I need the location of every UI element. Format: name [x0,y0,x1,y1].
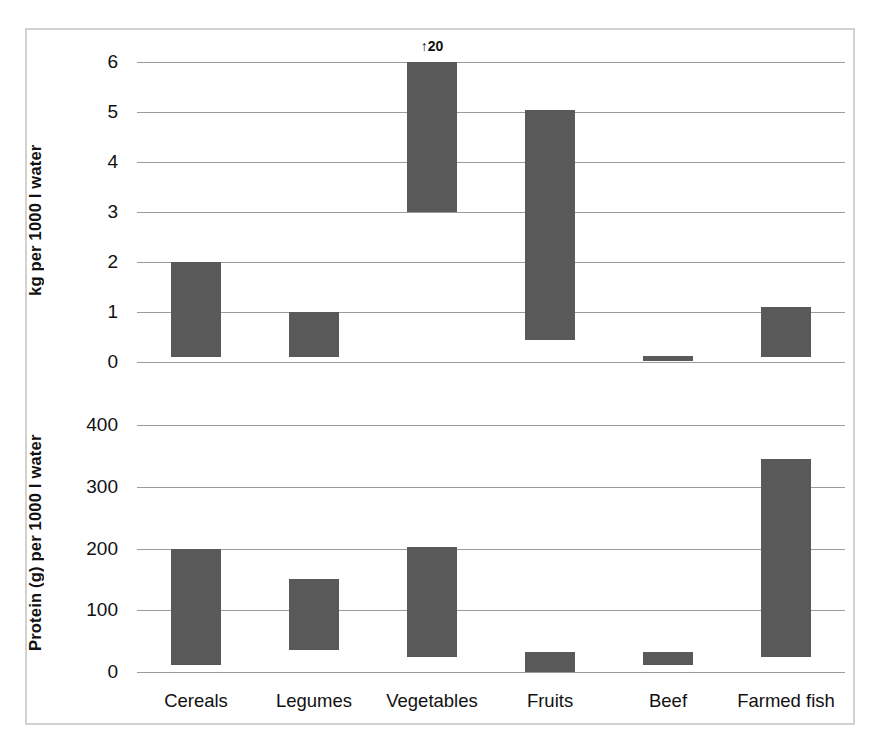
bar-farmed-fish [761,307,811,357]
y-axis-tick-label: 6 [0,51,118,73]
x-label-cereals: Cereals [164,690,228,712]
bar-annotation-vegetables: ↑20 [421,38,444,54]
x-label-beef: Beef [649,690,687,712]
plot-area-top [137,62,845,362]
y-axis-tick-label: 0 [0,661,118,683]
y-axis-tick-label: 0 [0,351,118,373]
bar-beef [643,652,693,664]
y-axis-tick-label: 4 [0,151,118,173]
gridline [137,162,845,163]
bar-fruits [525,652,575,672]
gridline [137,362,845,363]
gridline [137,62,845,63]
y-axis-tick-label: 1 [0,301,118,323]
y-axis-tick-label: 5 [0,101,118,123]
gridline [137,262,845,263]
y-axis-tick-label: 3 [0,201,118,223]
gridline [137,212,845,213]
chart-figure: kg per 1000 l water 0123456 Protein (g) … [0,0,877,748]
bar-vegetables [407,547,457,656]
y-axis-tick-label: 2 [0,251,118,273]
bar-cereals [171,549,221,665]
gridline [137,112,845,113]
gridline [137,610,845,611]
bar-cereals [171,262,221,357]
bar-farmed-fish [761,459,811,657]
y-axis-tick-label: 400 [0,414,118,436]
y-axis-tick-label: 300 [0,476,118,498]
gridline [137,425,845,426]
gridline [137,487,845,488]
bar-vegetables [407,62,457,212]
x-label-farmed-fish: Farmed fish [737,690,835,712]
bar-legumes [289,579,339,650]
y-axis-tick-label: 100 [0,599,118,621]
y-axis-tick-label: 200 [0,538,118,560]
bar-beef [643,356,693,361]
x-label-vegetables: Vegetables [386,690,478,712]
bar-fruits [525,110,575,340]
bar-legumes [289,312,339,357]
gridline [137,312,845,313]
gridline [137,672,845,673]
x-label-fruits: Fruits [527,690,573,712]
plot-area-bottom [137,425,845,672]
x-label-legumes: Legumes [276,690,352,712]
gridline [137,549,845,550]
